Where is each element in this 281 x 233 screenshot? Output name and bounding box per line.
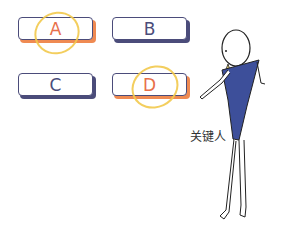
key-person-figure bbox=[0, 0, 281, 233]
figure-caption: 关键人 bbox=[190, 127, 226, 144]
head-icon bbox=[222, 30, 250, 66]
